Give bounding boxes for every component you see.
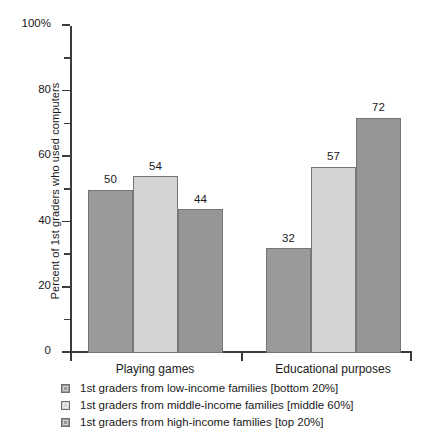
x-tick-start — [70, 353, 72, 361]
bar-playing-games-middle-income[interactable] — [133, 176, 178, 353]
bar-value-playing-games-low-income: 50 — [88, 174, 133, 186]
y-tick-80: 80 — [62, 90, 70, 92]
y-tick-label-40: 40 — [38, 215, 51, 227]
y-tick-20: 20 — [62, 286, 70, 288]
legend-item-high-income[interactable]: 1st graders from high-income families [t… — [61, 414, 444, 431]
y-tick-100: 100% — [62, 24, 70, 26]
bar-playing-games-high-income[interactable] — [178, 209, 223, 353]
legend-item-low-income[interactable]: 1st graders from low-income families [bo… — [61, 380, 444, 397]
y-tick-label-0: 0 — [45, 346, 51, 358]
bar-value-educational-purposes-middle-income: 57 — [311, 151, 356, 163]
bar-value-playing-games-high-income: 44 — [178, 194, 223, 206]
y-tick-label-60: 60 — [38, 149, 51, 161]
bar-value-playing-games-middle-income: 54 — [133, 161, 178, 173]
y-tick-label-20: 20 — [38, 280, 51, 292]
y-tick-60: 60 — [62, 155, 70, 157]
legend-swatch-icon-high-income — [61, 418, 70, 427]
x-category-label-playing-games: Playing games — [88, 362, 222, 376]
bar-group-container: 50 54 44 32 57 72 — [70, 26, 412, 353]
bar-educational-purposes-high-income[interactable] — [356, 118, 401, 353]
bar-chart: Percent of 1st graders who used computer… — [0, 0, 444, 441]
legend-swatch-icon-middle-income — [61, 401, 70, 410]
x-tick-end — [410, 353, 412, 361]
legend-item-middle-income[interactable]: 1st graders from middle-income families … — [61, 397, 444, 414]
bar-playing-games-low-income[interactable] — [88, 190, 133, 354]
legend-label-low-income: 1st graders from low-income families [bo… — [80, 383, 338, 395]
legend-swatch-icon-low-income — [61, 384, 70, 393]
bar-educational-purposes-middle-income[interactable] — [311, 167, 356, 353]
plot-area: 100% 80 60 40 20 0 50 — [70, 26, 412, 353]
bar-educational-purposes-low-income[interactable] — [266, 248, 311, 353]
y-tick-label-80: 80 — [38, 84, 51, 96]
x-category-label-educational-purposes: Educational purposes — [266, 362, 400, 376]
y-tick-0: 0 — [62, 351, 70, 353]
legend-label-middle-income: 1st graders from middle-income families … — [80, 400, 354, 412]
legend: 1st graders from low-income families [bo… — [61, 380, 444, 431]
legend-label-high-income: 1st graders from high-income families [t… — [80, 417, 324, 429]
bar-value-educational-purposes-high-income: 72 — [356, 102, 401, 114]
y-tick-40: 40 — [62, 221, 70, 223]
bar-value-educational-purposes-low-income: 32 — [266, 233, 311, 245]
x-tick-middle — [241, 353, 243, 361]
y-tick-label-100: 100% — [22, 19, 51, 31]
